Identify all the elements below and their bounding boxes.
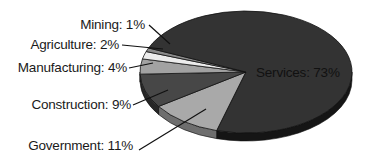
pie-chart: Services: 73% Government: 11% Constructi…	[0, 0, 373, 163]
label-services: Services: 73%	[256, 65, 340, 80]
label-agriculture: Agriculture: 2%	[30, 37, 119, 52]
label-construction: Construction: 9%	[31, 97, 131, 112]
label-government: Government: 11%	[28, 138, 133, 153]
label-mining: Mining: 1%	[80, 17, 145, 32]
label-manufacturing: Manufacturing: 4%	[18, 60, 127, 75]
